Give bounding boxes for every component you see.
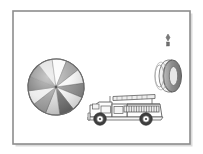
fire-truck-ladder-rack xyxy=(124,106,159,112)
hanging-tire-rod-clamp xyxy=(167,42,170,46)
fire-truck-window xyxy=(93,104,100,109)
scene-root: Illustration Scene xyxy=(0,0,203,154)
fire-truck-bumper xyxy=(88,113,90,120)
fire-truck-wheel-rear xyxy=(140,113,152,125)
fire-truck-wheel-front xyxy=(94,113,106,125)
fire-truck-side-panel xyxy=(101,106,111,113)
hanging-tire-inner-hole xyxy=(169,67,177,86)
fire-truck-locker xyxy=(114,107,123,114)
scene-canvas xyxy=(0,0,203,154)
